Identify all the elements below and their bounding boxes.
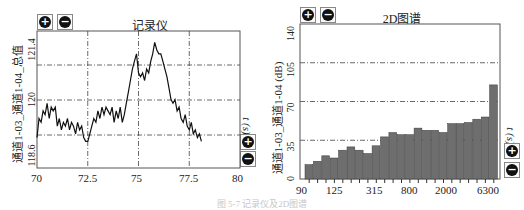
spectrum-xtick: 315 (366, 184, 383, 196)
recorder-grid (37, 31, 240, 168)
spectrum-ytick: 105 (285, 58, 296, 82)
spectrum-y-axis-label: 通道1-03_通道1-04 (dB) (269, 53, 285, 183)
right-time-zoom-out-button[interactable]: − (504, 162, 520, 178)
spectrum-ytick: 70 (285, 96, 296, 120)
right-time-zoom-in-button[interactable]: + (504, 143, 520, 159)
spectrum-title: 2D图谱 (362, 9, 442, 27)
spectrum-xtick: 800 (401, 184, 418, 196)
spectrum-ytick: 140 (285, 22, 296, 46)
spectrum-panel: + − 2D图谱 通道1-03_通道1-04 (dB) 140 105 70 3… (262, 0, 524, 195)
spectrum-xtick: 90 (296, 184, 307, 196)
minus-circle-icon: − (506, 164, 518, 176)
figure-caption: 图 5-7 记录仪及2D图谱 (0, 197, 524, 210)
plus-circle-icon: + (302, 9, 314, 21)
spectrum-xtick: 2000 (435, 184, 457, 196)
plus-circle-icon: + (506, 145, 518, 157)
spectrum-xtick: 6300 (477, 184, 499, 196)
recorder-line (37, 42, 201, 141)
spectrum-xtick: 125 (326, 184, 343, 196)
right-zoom-in-button[interactable]: + (300, 7, 316, 23)
minus-circle-icon: − (322, 9, 334, 21)
spectrum-ytick: 35 (285, 135, 296, 159)
right-zoom-out-button[interactable]: − (320, 7, 336, 23)
spectrum-ytick: 0 (285, 167, 296, 191)
